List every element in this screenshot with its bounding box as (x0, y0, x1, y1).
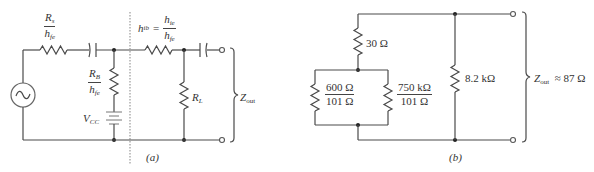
circuit-b (311, 12, 530, 143)
shunt-resistor-label: 8.2 kΩ (465, 73, 495, 84)
base-resistor-icon (110, 68, 118, 95)
right-parallel-label: 750 kΩ 101 Ω (397, 82, 432, 107)
brace-icon (522, 12, 530, 142)
brace-icon (230, 48, 238, 142)
input-capacitor-icon (89, 43, 90, 57)
base-resistor-label: RB hfe (88, 68, 101, 97)
source-resistor-icon (40, 46, 67, 54)
load-resistor-icon (180, 82, 188, 109)
left-parallel-resistor-icon (311, 84, 319, 111)
output-terminal (220, 48, 225, 53)
right-parallel-resistor-icon (384, 84, 392, 111)
output-terminal (220, 138, 225, 143)
zout-label-b: Zout ≈ 87 Ω (534, 73, 586, 86)
shunt-resistor-icon (451, 65, 459, 92)
zout-label-a: Zout (240, 92, 255, 105)
caption-a: (a) (146, 152, 159, 163)
supply-label: VCC (83, 113, 99, 126)
output-terminal (511, 138, 516, 143)
emitter-resistor-icon (145, 46, 172, 54)
battery-icon (106, 112, 122, 124)
series-resistor-label: 30 Ω (366, 38, 388, 49)
output-capacitor-icon (206, 43, 207, 57)
load-resistor-label: RL (192, 92, 203, 105)
output-terminal (511, 12, 516, 17)
sine-wave-icon (16, 91, 30, 98)
series-resistor-icon (354, 28, 362, 55)
emitter-resistor-label: hib = hie hfe (138, 14, 176, 43)
caption-b: (b) (449, 152, 462, 163)
left-parallel-label: 600 Ω 101 Ω (325, 82, 354, 107)
source-resistor-label: Rs hfe (44, 12, 55, 41)
